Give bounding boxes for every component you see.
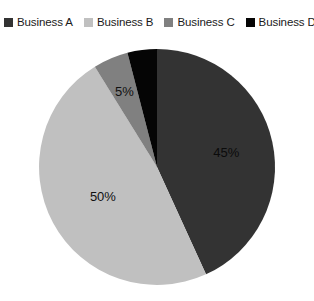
legend-label-business-c: Business C	[177, 16, 234, 29]
legend-label-business-a: Business A	[17, 16, 73, 29]
legend-swatch-icon-business-c	[164, 18, 173, 27]
pie-svg: 45% 50% 5%	[0, 36, 314, 301]
legend-swatch-icon-business-a	[4, 18, 13, 27]
legend-item-business-d[interactable]: Business D	[246, 16, 314, 29]
pie-slice-group	[39, 49, 275, 285]
pie-label-business-a: 45%	[213, 145, 239, 160]
chart-legend: Business A Business B Business C Busines…	[0, 11, 314, 33]
pie-chart-figure: Business A Business B Business C Busines…	[0, 0, 314, 301]
legend-swatch-icon-business-d	[246, 18, 255, 27]
pie-plot-area: 45% 50% 5%	[0, 36, 314, 301]
pie-label-business-b: 50%	[90, 189, 116, 204]
legend-swatch-icon-business-b	[84, 18, 93, 27]
legend-label-business-b: Business B	[97, 16, 154, 29]
legend-item-business-a[interactable]: Business A	[4, 16, 73, 29]
pie-label-business-c: 5%	[115, 84, 134, 99]
legend-label-business-d: Business D	[259, 16, 314, 29]
legend-item-business-b[interactable]: Business B	[84, 16, 154, 29]
legend-item-business-c[interactable]: Business C	[164, 16, 234, 29]
